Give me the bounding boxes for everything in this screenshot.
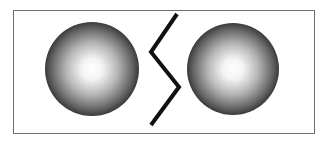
- right-sphere: [187, 23, 279, 115]
- left-sphere: [45, 22, 139, 116]
- zigzag-divider: [151, 14, 179, 125]
- diagram-canvas: [0, 0, 325, 143]
